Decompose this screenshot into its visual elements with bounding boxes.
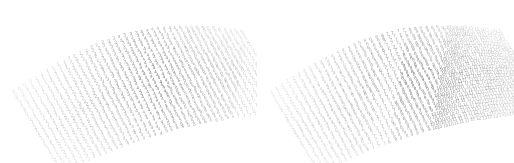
figure-canvas: 8 15: [0, 0, 514, 163]
numeric-surface-left: [0, 0, 257, 163]
chart-panel-right: [257, 0, 514, 163]
chart-panel-left: [0, 0, 257, 163]
numeric-surface-right: [257, 0, 514, 163]
